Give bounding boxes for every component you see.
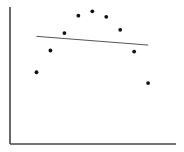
data-point: [63, 31, 67, 35]
data-point: [90, 9, 94, 13]
chart-canvas: [0, 0, 184, 152]
data-point: [132, 50, 136, 54]
data-point: [146, 81, 150, 85]
data-point: [35, 70, 39, 74]
data-point: [76, 14, 80, 18]
regression-line: [37, 36, 149, 45]
data-points: [35, 9, 150, 85]
scatter-chart: [0, 0, 184, 152]
data-point: [49, 49, 53, 53]
data-point: [118, 28, 122, 32]
data-point: [104, 15, 108, 19]
